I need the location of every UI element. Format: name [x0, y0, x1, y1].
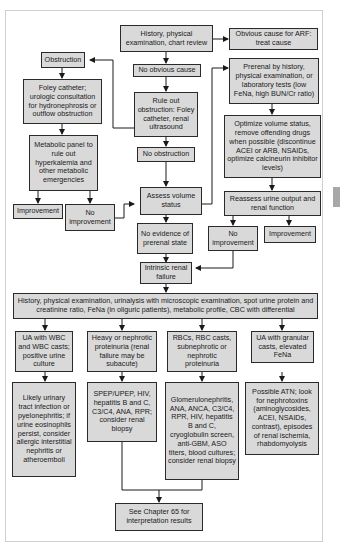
start-box: History, physical examination, chart rev…: [120, 25, 213, 52]
no-prerenal-evidence-box: No evidence of prerenal state: [137, 223, 193, 254]
no-obstruction-box: No obstruction: [137, 147, 195, 162]
prerenal-box: Prerenal by history, physical examinatio…: [229, 58, 319, 104]
improvement-left-box: Improvement: [13, 204, 63, 219]
intrinsic-renal-failure-box: Intrinsic renal failure: [140, 262, 192, 284]
foley-urology-box: Foley catheter; urologic consultation fo…: [23, 79, 102, 124]
optimize-volume-box: Optimize volume status, remove offending…: [224, 115, 321, 178]
no-obvious-cause-box: No obvious cause: [133, 64, 201, 77]
metabolic-panel-box: Metabolic panel to rule out hyperkalemia…: [29, 135, 98, 191]
improvement-right-box: Improvement: [264, 226, 316, 243]
finding-box-atn: UA with granular casts, elevated FeNa: [251, 331, 314, 363]
obvious-cause-box: Obvious cause for ARF: treat cause: [229, 28, 318, 50]
reassess-box: Reassess urine output and renal function: [224, 191, 321, 216]
no-improvement-left-box: No improvement: [65, 204, 115, 231]
action-box-uti: Likely urinary tract infection or pyelon…: [12, 382, 76, 477]
action-box-atn: Possible ATN; look for nephrotoxins (ami…: [245, 382, 319, 455]
rule-out-obstruction-box: Rule out obstruction: Foley catheter, re…: [134, 92, 198, 137]
see-chapter-box: See Chapter 65 for interpretation result…: [115, 503, 203, 531]
action-box-proteinuria: SPEP/UPEP, HIV, hepatitis B and C, C3/C4…: [87, 382, 157, 442]
obstruction-box: Obstruction: [41, 52, 85, 68]
assess-volume-box: Assess volume status: [140, 187, 202, 215]
finding-box-uti: UA with WBC and WBC casts; positive urin…: [15, 331, 73, 372]
no-improvement-right-box: No improvement: [208, 226, 258, 251]
action-box-glomerular: Glomerulonephritis, ANA, ANCA, C3/C4, RP…: [165, 382, 239, 480]
workup-box: History, physical examination, urinalysi…: [13, 293, 318, 319]
finding-box-glomerular: RBCs, RBC casts, subnephrotic or nephrot…: [167, 331, 237, 372]
finding-box-proteinuria: Heavy or nephrotic proteinuria (renal fa…: [87, 331, 157, 372]
